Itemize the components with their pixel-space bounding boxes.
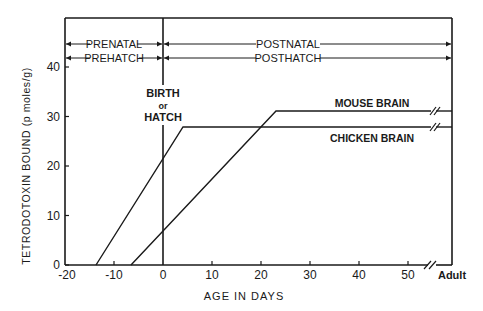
birth-hatch-label: BIRTH or HATCH — [144, 85, 182, 125]
y-tick-label: 10 — [47, 209, 61, 223]
x-tick-label: -10 — [105, 268, 123, 282]
prehatch-label: PREHATCH — [84, 52, 144, 64]
x-tick-label: 10 — [205, 268, 219, 282]
x-tick-label: 50 — [401, 268, 415, 282]
x-tick-label: -20 — [58, 268, 76, 282]
y-axis-title: TETRODOTOXIN BOUND (p moles/g) — [20, 67, 32, 265]
svg-text:BIRTH: BIRTH — [146, 87, 180, 99]
y-tick-label: 30 — [47, 110, 61, 124]
mouse-brain-label: MOUSE BRAIN — [335, 97, 410, 109]
svg-text:HATCH: HATCH — [144, 111, 182, 123]
y-tick-label: 20 — [47, 159, 61, 173]
prenatal-label: PRENATAL — [86, 38, 142, 50]
postnatal-label: POSTNATAL — [256, 38, 320, 50]
y-tick-label: 40 — [47, 60, 61, 74]
x-tick-label: 0 — [160, 268, 167, 282]
x-tick-label-adult: Adult — [438, 269, 466, 281]
chicken-brain-label: CHICKEN BRAIN — [330, 132, 414, 144]
svg-text:or: or — [159, 101, 168, 111]
x-tick-label: 40 — [352, 268, 366, 282]
y-axis-tick-labels: 0 10 20 30 40 — [47, 60, 61, 272]
chart: 0 10 20 30 40 -20 -10 0 10 20 30 40 50 A… — [0, 0, 483, 311]
x-axis-title: AGE IN DAYS — [204, 290, 284, 302]
x-tick-label: 20 — [254, 268, 268, 282]
x-axis-tick-labels: -20 -10 0 10 20 30 40 50 Adult — [58, 268, 466, 282]
span-labels: PRENATAL PREHATCH POSTNATAL POSTHATCH — [84, 38, 321, 64]
chicken-brain-line — [96, 127, 431, 265]
x-tick-label: 30 — [303, 268, 317, 282]
posthatch-label: POSTHATCH — [254, 52, 321, 64]
